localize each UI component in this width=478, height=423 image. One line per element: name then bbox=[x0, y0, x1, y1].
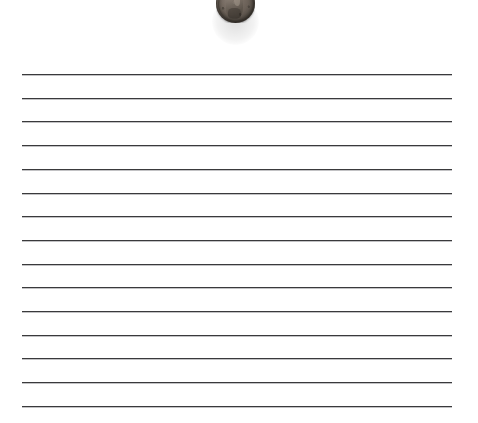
rule-line bbox=[22, 311, 452, 312]
rule-line bbox=[22, 121, 452, 122]
rule-line bbox=[22, 335, 452, 336]
rule-line bbox=[22, 193, 452, 194]
coin-surface-texture bbox=[216, 0, 255, 23]
rule-line bbox=[22, 240, 452, 241]
rule-line bbox=[22, 382, 452, 383]
us-penny bbox=[216, 0, 255, 23]
coin-clip-region bbox=[216, 0, 255, 23]
rule-line bbox=[22, 406, 452, 407]
rule-line bbox=[22, 264, 452, 265]
rule-line bbox=[22, 98, 452, 99]
rule-line bbox=[22, 287, 452, 288]
rule-line bbox=[22, 358, 452, 359]
rule-line bbox=[22, 145, 452, 146]
scene-root bbox=[0, 0, 478, 423]
rule-line bbox=[22, 216, 452, 217]
rule-line bbox=[22, 74, 452, 75]
rule-line bbox=[22, 169, 452, 170]
